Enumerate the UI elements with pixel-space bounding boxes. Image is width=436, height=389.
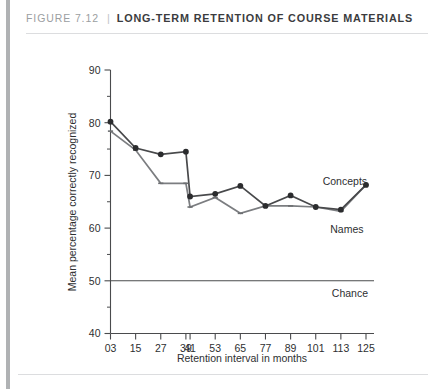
series-markers-names	[108, 131, 369, 213]
x-axis-ticks	[111, 334, 367, 340]
y-tick-label: 50	[89, 275, 101, 287]
y-tick-label: 80	[89, 117, 101, 129]
data-point-concepts	[183, 149, 189, 155]
x-tick-label: 125	[357, 342, 375, 354]
y-tick-label: 40	[89, 327, 101, 339]
x-tick-label: 03	[105, 342, 117, 354]
data-point-concepts	[338, 207, 344, 213]
series-line-names	[111, 131, 367, 213]
data-point-concepts	[263, 203, 269, 209]
data-point-concepts	[288, 193, 294, 199]
x-tick-label: 27	[155, 342, 167, 354]
chance-label: Chance	[332, 287, 368, 299]
data-point-concepts	[237, 183, 243, 189]
series-line-concepts	[111, 122, 367, 210]
chart-plot-area: 405060708090 031527394153657789101113125…	[0, 0, 436, 389]
data-point-concepts	[187, 194, 193, 200]
data-point-concepts	[313, 204, 319, 210]
retention-line-chart: 405060708090 031527394153657789101113125…	[0, 0, 436, 389]
y-tick-label: 70	[89, 169, 101, 181]
data-point-concepts	[158, 151, 164, 157]
series-label-names: Names	[330, 223, 363, 235]
y-axis-ticks	[105, 70, 111, 334]
y-axis-tick-labels: 405060708090	[89, 64, 101, 340]
y-tick-label: 60	[89, 222, 101, 234]
data-point-concepts	[133, 145, 139, 151]
data-point-concepts	[212, 191, 218, 197]
x-tick-label: 101	[307, 342, 325, 354]
x-axis-title: Retention interval in months	[177, 352, 307, 364]
series-label-concepts: Concepts	[323, 175, 367, 187]
data-point-concepts	[108, 119, 114, 125]
y-tick-label: 90	[89, 64, 101, 76]
x-tick-label: 15	[130, 342, 142, 354]
y-axis-title: Mean percentage correctly recognized	[66, 113, 78, 292]
x-tick-label: 113	[332, 342, 349, 354]
